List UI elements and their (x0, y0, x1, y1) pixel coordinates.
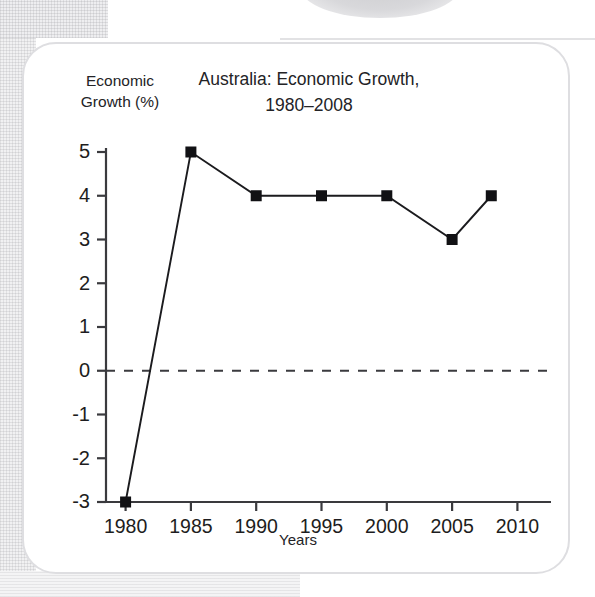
data-point-marker (185, 147, 196, 158)
data-series-line (126, 152, 492, 502)
chart-axes (105, 148, 551, 503)
x-axis-title: Years (24, 531, 572, 548)
x-axis-tick-marks (126, 502, 518, 511)
data-point-marker (381, 190, 392, 201)
y-axis-tick-label: 0 (79, 359, 90, 381)
data-point-marker (447, 234, 458, 245)
y-axis-tick-label: 1 (79, 315, 90, 337)
data-point-marker (486, 190, 497, 201)
line-chart-plot: 543210-1-2-3 198019851990199520002005201… (24, 44, 572, 576)
y-axis-tick-label: 3 (79, 228, 90, 250)
decorative-ellipse-artifact (300, 0, 460, 18)
y-axis-tick-label: -3 (72, 490, 90, 512)
y-axis-tick-marks (97, 152, 106, 502)
decorative-rule-artifact (280, 38, 595, 40)
data-point-marker (251, 190, 262, 201)
data-point-marker (316, 190, 327, 201)
y-axis-tick-label: 4 (79, 184, 90, 206)
chart-card: Economic Growth (%) Australia: Economic … (22, 42, 570, 574)
y-axis-tick-label: -1 (72, 403, 90, 425)
paper-texture-top-left-block (0, 0, 108, 38)
y-axis-tick-label: -2 (72, 447, 90, 469)
series-polyline (126, 152, 492, 502)
y-axis-tick-label: 5 (79, 140, 90, 162)
data-series-markers (120, 147, 497, 508)
y-axis-tick-label: 2 (79, 272, 90, 294)
y-axis-tick-labels: 543210-1-2-3 (72, 140, 90, 512)
data-point-marker (120, 497, 131, 508)
